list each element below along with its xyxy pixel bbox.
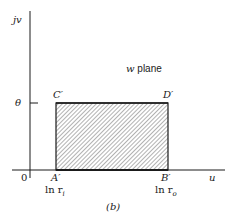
corner-b-label: B′: [161, 173, 171, 183]
corner-a-label: A′: [51, 173, 61, 183]
hatched-region: [56, 103, 168, 170]
ln-ro-subscript: o: [173, 190, 177, 198]
plane-label: w plane: [126, 64, 162, 74]
ln-ri-subscript: i: [63, 190, 65, 198]
corner-c-label: C′: [53, 90, 63, 100]
horizontal-axis-label: u: [209, 173, 215, 183]
origin-label: 0: [21, 173, 27, 183]
corner-d-label: D′: [163, 90, 173, 100]
ln-ri-text: ln r: [45, 184, 63, 195]
ln-ri-label: ln ri: [45, 185, 65, 199]
w-plane-diagram: [0, 0, 235, 222]
figure-caption: (b): [106, 202, 120, 212]
ln-ro-label: ln ro: [155, 185, 177, 199]
ln-ro-text: ln r: [155, 184, 173, 195]
theta-label: θ: [15, 98, 21, 108]
vertical-axis-label: jv: [13, 15, 22, 25]
